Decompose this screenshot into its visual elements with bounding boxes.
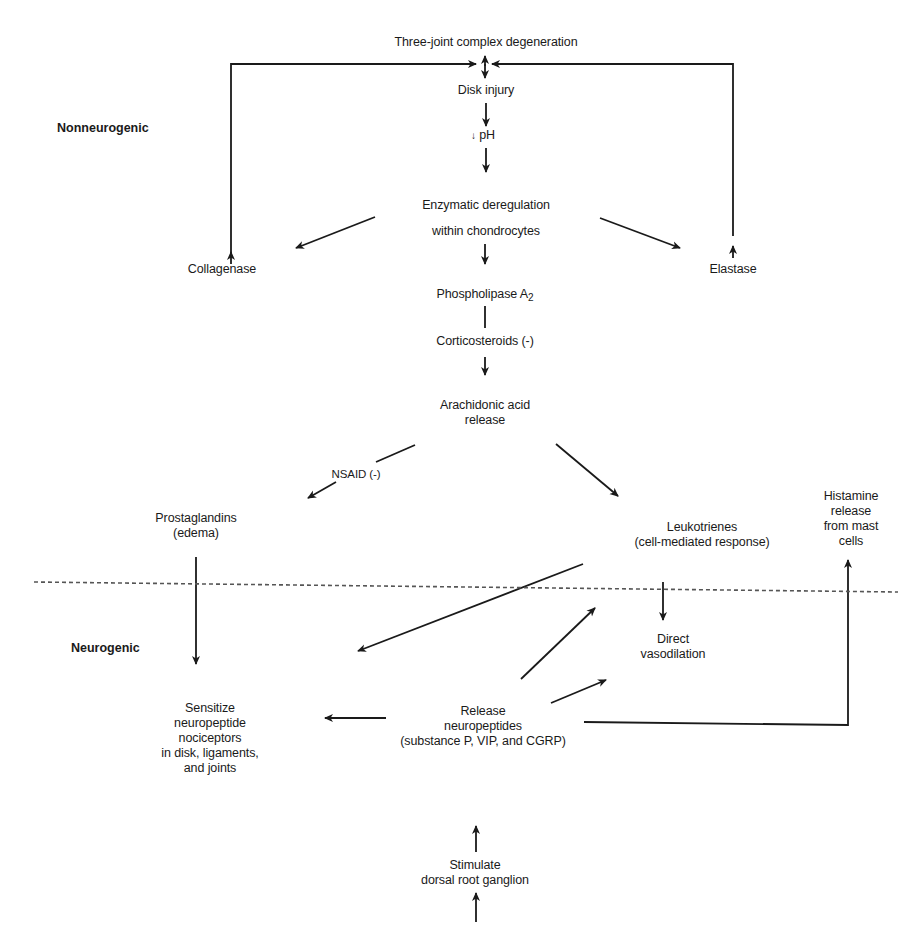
region-label-nonneurogenic: Nonneurogenic (57, 121, 149, 135)
node-disk-injury: Disk injury (458, 83, 515, 98)
node-text: Collagenase (188, 262, 256, 277)
node-sensitize-nociceptors: Sensitize neuropeptide nociceptors in di… (161, 701, 258, 776)
node-text: Prostaglandins (155, 511, 236, 526)
node-text: neuropeptide (161, 716, 258, 731)
node-three-joint-degeneration: Three-joint complex degeneration (394, 35, 577, 50)
edge-label-nsaid: NSAID (-) (332, 467, 381, 482)
node-text: within chondrocytes (422, 218, 550, 244)
node-release-neuropeptides: Release neuropeptides (substance P, VIP,… (400, 704, 566, 749)
decrease-arrow-icon: ↓ (471, 130, 476, 141)
region-divider (34, 582, 898, 592)
node-text: Release (400, 704, 566, 719)
node-text: Corticosteroids (-) (436, 334, 533, 349)
node-text: neuropeptides (400, 719, 566, 734)
node-text: Stimulate (421, 858, 529, 873)
node-collagenase: Collagenase (188, 262, 256, 277)
region-label-neurogenic: Neurogenic (71, 641, 140, 655)
node-text: NSAID (-) (332, 467, 381, 482)
node-text: and joints (161, 761, 258, 776)
node-text: pH (479, 128, 495, 142)
node-text: release (440, 413, 530, 428)
node-text: Three-joint complex degeneration (394, 35, 577, 50)
node-leukotrienes: Leukotrienes (cell-mediated response) (634, 520, 769, 550)
node-text: Elastase (709, 262, 756, 277)
node-text: Phospholipase A (436, 287, 528, 301)
node-direct-vasodilation: Direct vasodilation (641, 632, 706, 662)
node-text: Leukotrienes (634, 520, 769, 535)
node-text: Arachidonic acid (440, 398, 530, 413)
node-stimulate-drg: Stimulate dorsal root ganglion (421, 858, 529, 888)
node-enzymatic-deregulation: Enzymatic deregulation within chondrocyt… (422, 192, 550, 244)
node-text: Disk injury (458, 83, 515, 98)
node-text: Enzymatic deregulation (422, 192, 550, 218)
node-arachidonic-acid-release: Arachidonic acid release (440, 398, 530, 428)
node-prostaglandins: Prostaglandins (edema) (155, 511, 236, 541)
node-low-ph: ↓ pH (471, 128, 495, 143)
node-corticosteroids: Corticosteroids (-) (436, 334, 533, 349)
node-text: (edema) (155, 526, 236, 541)
node-phospholipase-a2: Phospholipase A2 (436, 287, 533, 305)
node-elastase: Elastase (709, 262, 756, 277)
node-text: (cell-mediated response) (634, 535, 769, 550)
node-text: (substance P, VIP, and CGRP) (400, 734, 566, 749)
node-text: cells (824, 534, 879, 549)
node-text: Sensitize (161, 701, 258, 716)
node-histamine-release: Histamine release from mast cells (824, 489, 879, 549)
node-text: Histamine (824, 489, 879, 504)
node-text: from mast (824, 519, 879, 534)
node-text: release (824, 504, 879, 519)
connector-lines (0, 0, 910, 931)
node-text: vasodilation (641, 647, 706, 662)
node-text: nociceptors (161, 731, 258, 746)
node-text: Direct (641, 632, 706, 647)
subscript: 2 (528, 292, 533, 303)
pathophysiology-diagram: Nonneurogenic Neurogenic Three-joint com… (0, 0, 910, 931)
node-text: dorsal root ganglion (421, 873, 529, 888)
node-text: in disk, ligaments, (161, 746, 258, 761)
